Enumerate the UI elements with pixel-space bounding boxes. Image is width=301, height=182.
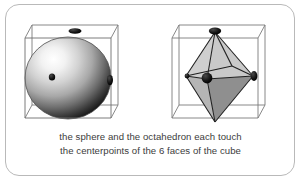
panel-sphere-in-cube [25,25,118,119]
caption-line-1: the sphere and the octahedron each touch [0,130,301,144]
octahedron-touch-dot-right [251,71,258,81]
sphere-body [25,37,111,119]
octahedron-touch-dot-left [185,74,190,79]
sphere-touch-dot-right [107,75,113,85]
panel-octahedron-in-cube [172,25,265,122]
figure-container: the sphere and the octahedron each touch… [0,0,301,182]
caption-line-2: the centerpoints of the 6 faces of the c… [0,144,301,158]
caption: the sphere and the octahedron each touch… [0,130,301,158]
octahedron-touch-dot-top [209,28,221,35]
octahedron-touch-dot-front [202,73,213,84]
sphere-touch-dot-front [49,73,55,80]
sphere-touch-dot-top [69,28,82,34]
